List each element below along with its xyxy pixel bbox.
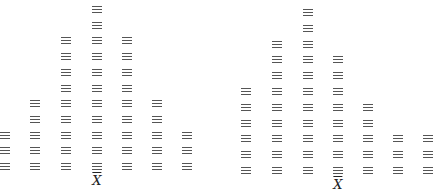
triple-bar-icon [122,52,132,60]
triple-bar-icon [61,36,71,44]
triple-bar-icon [152,99,162,107]
triple-bar-icon [182,131,192,139]
triple-bar-icon [61,131,71,139]
triple-bar-icon [92,162,102,170]
triple-bar-icon [92,5,102,13]
triple-bar-icon [363,119,373,127]
triple-bar-icon [272,166,282,174]
triple-bar-icon [122,36,132,44]
triple-bar-icon [92,99,102,107]
triple-bar-icon [272,150,282,158]
triple-bar-icon [122,146,132,154]
triple-bar-icon [393,150,403,158]
triple-bar-icon [61,162,71,170]
triple-bar-icon [363,134,373,142]
triple-bar-icon [122,115,132,123]
triple-bar-icon [61,115,71,123]
triple-bar-icon [393,134,403,142]
triple-bar-icon [241,119,251,127]
triple-bar-icon [363,103,373,111]
triple-bar-icon [30,99,40,107]
triple-bar-icon [152,131,162,139]
triple-bar-icon [122,162,132,170]
triple-bar-icon [241,134,251,142]
triple-bar-icon [363,166,373,174]
triple-bar-icon [272,103,282,111]
triple-bar-icon [152,146,162,154]
triple-bar-icon [122,99,132,107]
triple-bar-icon [303,87,313,95]
triple-bar-icon [241,150,251,158]
triple-bar-icon [333,71,343,79]
triple-bar-icon [0,131,10,139]
triple-bar-icon [92,84,102,92]
triple-bar-icon [92,36,102,44]
triple-bar-icon [30,162,40,170]
mean-label: X [333,178,342,191]
triple-bar-icon [303,55,313,63]
triple-bar-icon [241,87,251,95]
triple-bar-icon [333,150,343,158]
triple-bar-icon [152,162,162,170]
triple-bar-icon [152,115,162,123]
triple-bar-icon [272,40,282,48]
triple-bar-icon [423,134,433,142]
triple-bar-icon [30,146,40,154]
triple-bar-icon [92,68,102,76]
triple-bar-icon [30,131,40,139]
triple-bar-icon [303,103,313,111]
triple-bar-icon [333,119,343,127]
triple-bar-icon [303,150,313,158]
triple-bar-icon [303,24,313,32]
triple-bar-icon [92,131,102,139]
triple-bar-icon [333,55,343,63]
triple-bar-icon [122,84,132,92]
triple-bar-icon [30,115,40,123]
triple-bar-icon [182,146,192,154]
triple-bar-icon [0,162,10,170]
triple-bar-icon [241,166,251,174]
triple-bar-icon [61,146,71,154]
triple-bar-icon [0,146,10,154]
triple-bar-icon [92,52,102,60]
triple-bar-icon [303,166,313,174]
triple-bar-icon [61,52,71,60]
triple-bar-icon [363,150,373,158]
triple-bar-icon [303,134,313,142]
triple-bar-icon [272,71,282,79]
triple-bar-icon [92,146,102,154]
triple-bar-icon [61,99,71,107]
triple-bar-icon [61,68,71,76]
mean-label: X [92,174,101,187]
triple-bar-icon [423,150,433,158]
triple-bar-icon [182,162,192,170]
triple-bar-icon [303,40,313,48]
triple-bar-icon [303,8,313,16]
triple-bar-icon [92,21,102,29]
triple-bar-icon [303,119,313,127]
triple-bar-icon [333,166,343,174]
triple-bar-icon [423,166,433,174]
triple-bar-icon [122,68,132,76]
triple-bar-icon [272,119,282,127]
triple-bar-icon [333,103,343,111]
triple-bar-icon [122,131,132,139]
triple-bar-icon [92,115,102,123]
triple-bar-icon [303,71,313,79]
triple-bar-icon [393,166,403,174]
triple-bar-icon [333,87,343,95]
triple-bar-icon [272,87,282,95]
triple-bar-icon [61,84,71,92]
triple-bar-icon [272,134,282,142]
triple-bar-icon [241,103,251,111]
triple-bar-icon [272,55,282,63]
triple-bar-icon [333,134,343,142]
